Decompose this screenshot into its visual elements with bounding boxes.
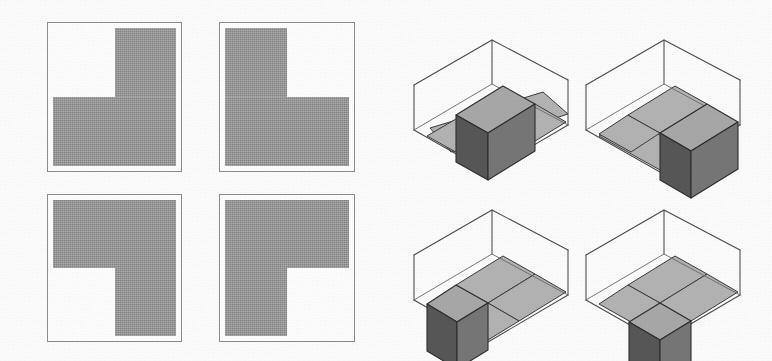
shape-panel-1[interactable] [47,22,182,172]
quadrant-top-left [53,200,115,268]
quadrant-top-left [225,200,287,268]
shape-panel-2[interactable] [219,22,355,172]
quadrant-bottom-left [225,268,287,336]
quadrant-top-right [287,28,349,97]
shape-panel-1-inner [53,28,176,166]
box-panel-1[interactable] [400,22,578,187]
quadrant-bottom-right [115,268,177,336]
shape-panel-4-inner [225,200,349,336]
shape-panel-2-inner [225,28,349,166]
raised-cube-back-left [456,86,535,180]
quadrant-bottom-right [115,97,177,166]
quadrant-bottom-left [53,268,115,336]
box-panel-3[interactable] [400,192,578,357]
quadrant-top-left [225,28,287,97]
figure-canvas [0,0,772,361]
box-panel-4[interactable] [572,192,752,357]
quadrant-bottom-left [53,97,115,166]
box-panel-4-drawing [572,192,752,357]
quadrant-top-right [115,200,177,268]
quadrant-bottom-left [225,97,287,166]
quadrant-bottom-right [287,268,349,336]
box-panel-2-drawing [572,22,752,187]
box-panel-1-drawing [400,22,578,187]
quadrant-top-right [287,200,349,268]
shape-panel-4[interactable] [219,194,355,342]
box-panel-2[interactable] [572,22,752,187]
quadrant-top-right [115,28,177,97]
quadrant-bottom-right [287,97,349,166]
shape-panel-3[interactable] [47,194,182,342]
quadrant-top-left [53,28,115,97]
box-panel-3-drawing [400,192,578,357]
shape-panel-3-inner [53,200,176,336]
